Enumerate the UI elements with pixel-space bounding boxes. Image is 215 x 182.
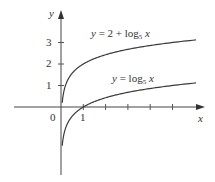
- x-tick-label-1: 1: [80, 111, 86, 123]
- y-tick-label-2: 2: [46, 57, 52, 69]
- x-axis-label: x: [197, 112, 203, 124]
- y-axis-label: y: [48, 7, 54, 19]
- series-label-upper-mid: = 2 + log: [96, 27, 139, 39]
- series-label-upper-var: x: [142, 27, 150, 39]
- series-label-upper: y = 2 + log5 x: [90, 27, 150, 41]
- x-axis-arrow-icon: [196, 104, 205, 110]
- series-label-lower-var: x: [146, 72, 154, 84]
- y-tick-label-3: 3: [46, 36, 52, 48]
- origin-label: 0: [50, 111, 56, 123]
- log-functions-chart: y x 3 2 1 0 1 y = 2 + log5 x y = log5 x: [0, 0, 215, 182]
- y-tick-label-1: 1: [46, 79, 52, 91]
- series-label-lower: y = log5 x: [111, 72, 154, 86]
- series-label-lower-mid: = log: [117, 72, 143, 84]
- y-axis-arrow-icon: [58, 10, 64, 19]
